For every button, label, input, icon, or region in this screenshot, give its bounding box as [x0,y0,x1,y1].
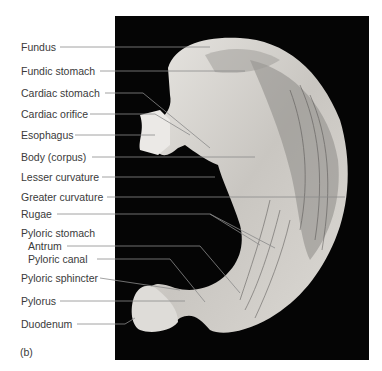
label-body-corpus: Body (corpus) [21,151,86,163]
label-cardiac-orifice: Cardiac orifice [21,108,88,120]
panel-label: (b) [20,346,33,358]
label-lesser-curvature: Lesser curvature [21,171,99,183]
label-pyloric-stomach: Pyloric stomach [21,227,95,239]
leader-lines [0,0,382,371]
label-esophagus: Esophagus [21,129,74,141]
label-fundus: Fundus [21,41,56,53]
label-rugae: Rugae [21,208,52,220]
label-antrum: Antrum [28,240,62,252]
label-duodenum: Duodenum [21,318,72,330]
label-pyloric-sphincter: Pyloric sphincter [21,272,98,284]
label-pylorus: Pylorus [21,295,56,307]
label-pyloric-canal: Pyloric canal [28,253,88,265]
label-greater-curvature: Greater curvature [21,191,103,203]
label-fundic-stomach: Fundic stomach [21,65,95,77]
label-cardiac-stomach: Cardiac stomach [21,87,100,99]
